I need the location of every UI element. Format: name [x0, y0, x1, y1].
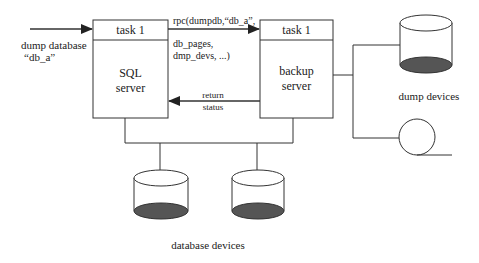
rpc-call: rpc(dumpdb,“db_a”, db_pages, dmp_devs, .… [168, 15, 259, 62]
sql-server-box: task 1 SQL server [93, 20, 168, 118]
database-device-1 [134, 170, 188, 219]
rpc-label-line2: db_pages, [173, 38, 213, 49]
dump-database-diagram: dump database “db_a” task 1 SQL server t… [0, 0, 479, 263]
backup-server-label-line1: backup [279, 64, 314, 78]
return-label-line1: return [202, 90, 224, 100]
return-status: return status [169, 90, 260, 112]
rpc-label-line1: rpc(dumpdb,“db_a”, [173, 15, 255, 27]
dump-command-input: dump database “db_a” [21, 29, 92, 63]
dump-device-tape [399, 119, 452, 155]
database-device-2 [232, 170, 284, 219]
database-devices-label: database devices [171, 239, 245, 251]
sql-server-label-line2: server [116, 81, 145, 95]
input-label-line2: “db_a” [24, 51, 55, 63]
sql-server-label-line1: SQL [119, 66, 142, 80]
input-label-line1: dump database [21, 39, 87, 51]
sql-task-label: task 1 [116, 23, 144, 37]
dump-device-disk [400, 15, 452, 73]
dump-devices-label: dump devices [399, 90, 460, 102]
backup-server-box: task 1 backup server [260, 20, 333, 118]
backup-server-label-line2: server [282, 79, 311, 93]
backup-task-label: task 1 [282, 23, 310, 37]
return-label-line2: status [203, 102, 224, 112]
dump-devices-bus [333, 45, 400, 138]
database-bus [125, 118, 293, 170]
rpc-label-line3: dmp_devs, ...) [173, 50, 230, 62]
